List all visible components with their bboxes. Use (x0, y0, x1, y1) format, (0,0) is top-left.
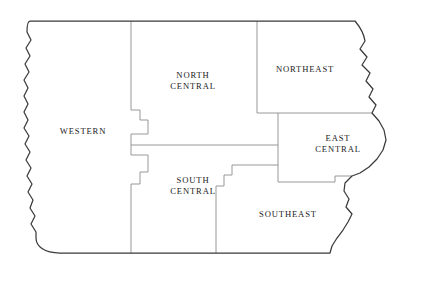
iowa-regions-map-svg (0, 0, 429, 292)
region-area-western[interactable] (24, 21, 148, 253)
map-container: WESTERN NORTH CENTRAL NORTHEAST EAST CEN… (0, 0, 429, 292)
region-label-east-central: EAST CENTRAL (315, 133, 361, 154)
region-label-south-central: SOUTH CENTRAL (170, 175, 216, 196)
region-label-southeast: SOUTHEAST (259, 209, 317, 220)
region-label-north-central: NORTH CENTRAL (170, 70, 216, 91)
region-label-northeast: NORTHEAST (276, 64, 334, 75)
region-label-western: WESTERN (60, 126, 107, 137)
